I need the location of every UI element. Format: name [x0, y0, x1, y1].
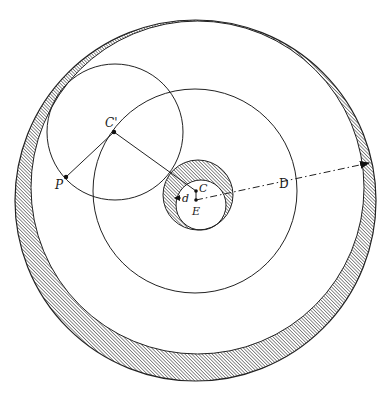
point-c [194, 189, 198, 193]
point-p [64, 175, 68, 179]
label-p: P [54, 178, 64, 192]
point-e [194, 198, 198, 202]
label-e: E [191, 205, 200, 218]
point-c-prime [112, 130, 116, 134]
label-d-small: d [182, 192, 189, 205]
epicycle-diagram: C' P C E d D [0, 0, 387, 394]
label-d-large: D [279, 177, 289, 191]
central-hub [0, 0, 387, 394]
label-c-prime: C' [105, 116, 117, 130]
label-c: C [199, 182, 208, 195]
